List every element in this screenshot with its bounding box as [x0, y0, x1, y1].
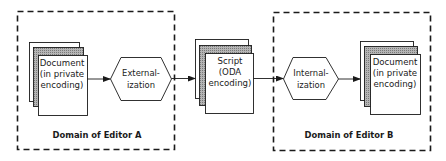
- document-b-stack-icon: [361, 42, 421, 115]
- internalization-label-line2: ization: [297, 80, 325, 90]
- externalization-label-line1: External-: [122, 68, 160, 78]
- externalization-label-line2: ization: [127, 80, 155, 90]
- document-a-stack-icon: [30, 43, 88, 116]
- document-a-label-line1: Document: [40, 58, 85, 68]
- interchange-diagram: Domain of Editor A Domain of Editor B Do…: [0, 0, 446, 161]
- document-a-label-line3: encoding): [41, 80, 84, 90]
- script-label-line2: (ODA: [219, 67, 242, 77]
- internalization-process-hexagon: [284, 58, 339, 100]
- internalization-label-line1: Internal-: [293, 68, 328, 78]
- domain-b-label: Domain of Editor B: [305, 130, 394, 140]
- script-label-line1: Script: [218, 56, 244, 66]
- externalization-process-hexagon: [111, 58, 172, 101]
- domain-a-label: Domain of Editor A: [52, 130, 142, 140]
- script-label-line3: encoding): [209, 78, 252, 88]
- document-a-label-line2: (in private: [40, 69, 84, 79]
- document-b-label-line3: encoding): [374, 79, 417, 89]
- document-b-label-line2: (in private: [373, 68, 417, 78]
- document-b-label-line1: Document: [373, 57, 418, 67]
